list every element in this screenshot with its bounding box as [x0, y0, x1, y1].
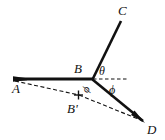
diagram-canvas: ϕ A B B' C D θ ϕ	[0, 0, 165, 140]
angle-label-psi: ϕ	[79, 83, 92, 94]
vertex-label-D: D	[146, 122, 157, 137]
angle-marker-psi: ϕ	[79, 83, 92, 94]
angle-label-phi: ϕ	[109, 83, 115, 97]
angle-label-theta: θ	[99, 64, 105, 78]
bprime-tick-icon	[74, 91, 83, 100]
segment-Bprime-to-D	[79, 95, 143, 121]
geometry-diagram: ϕ A B B' C D θ ϕ	[0, 0, 165, 140]
segment-B-to-C	[93, 21, 122, 80]
segment-A-to-Bprime	[15, 81, 79, 95]
vertex-label-B-prime: B'	[67, 101, 78, 116]
arrowhead-D	[131, 111, 145, 124]
vertex-label-B: B	[74, 61, 82, 76]
vertex-label-C: C	[118, 3, 127, 18]
vertex-label-A: A	[11, 81, 20, 96]
